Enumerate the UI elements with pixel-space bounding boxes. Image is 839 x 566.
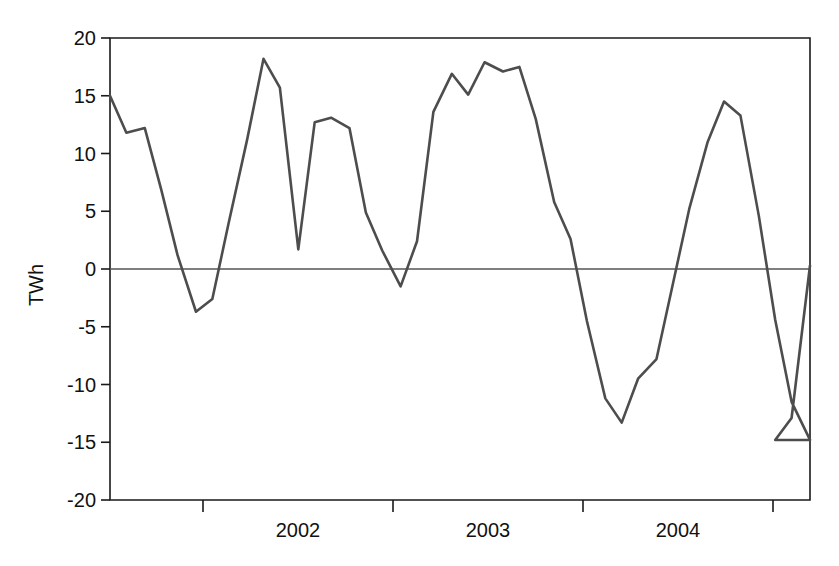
- x-tick-label-2004: 2004: [656, 519, 701, 541]
- y-axis-ticks: [101, 38, 110, 500]
- y-axis-title: TWh: [25, 264, 47, 306]
- y-tick-label-5: 5: [85, 200, 96, 222]
- y-tick-label-minus10: -10: [67, 374, 96, 396]
- y-tick-label-minus15: -15: [67, 431, 96, 453]
- x-axis-tick-labels: 2002 2003 2004: [276, 519, 701, 541]
- y-tick-label-minus20: -20: [67, 489, 96, 511]
- y-tick-label-10: 10: [74, 143, 96, 165]
- y-tick-label-minus5: -5: [78, 316, 96, 338]
- x-tick-label-2003: 2003: [466, 519, 511, 541]
- data-series-line: [110, 59, 810, 440]
- line-chart: 20 15 10 5 0 -5 -10 -15 -20 TWh 2002 200…: [0, 0, 839, 566]
- x-tick-label-2002: 2002: [276, 519, 321, 541]
- x-axis-ticks: [203, 500, 773, 512]
- y-tick-label-20: 20: [74, 27, 96, 49]
- chart-figure: 20 15 10 5 0 -5 -10 -15 -20 TWh 2002 200…: [0, 0, 839, 566]
- y-tick-label-15: 15: [74, 85, 96, 107]
- y-axis-tick-labels: 20 15 10 5 0 -5 -10 -15 -20: [67, 27, 96, 511]
- y-tick-label-0: 0: [85, 258, 96, 280]
